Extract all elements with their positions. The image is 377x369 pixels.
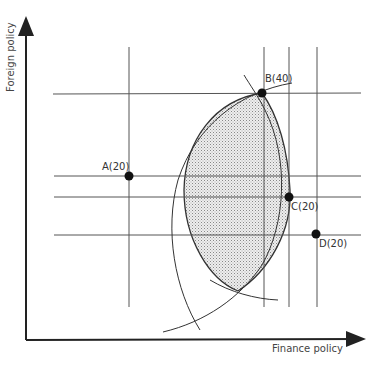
y-axis-label: Foreign policy [5, 22, 16, 92]
label-point-b: B(40) [265, 73, 292, 84]
x-axis-label: Finance policy [272, 343, 343, 354]
point-a [125, 172, 134, 181]
point-b [258, 89, 267, 98]
shaded-region [184, 93, 290, 291]
label-point-d: D(20) [319, 238, 347, 249]
diagram-canvas: A(20) B(40) C(20) D(20) Finance policy F… [0, 0, 377, 369]
x-axis [26, 339, 362, 340]
label-point-c: C(20) [291, 201, 319, 212]
policy-diagram: A(20) B(40) C(20) D(20) Finance policy F… [0, 0, 377, 369]
label-point-a: A(20) [102, 161, 129, 172]
